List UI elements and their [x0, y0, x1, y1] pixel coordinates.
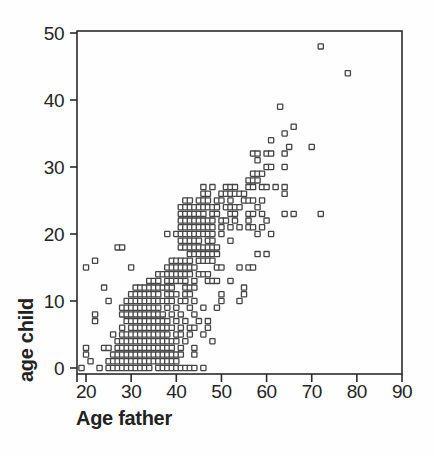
data-point-marker — [169, 285, 174, 290]
data-point-marker — [192, 265, 197, 270]
data-point-marker — [219, 292, 224, 297]
data-point-marker — [169, 325, 174, 330]
data-point-marker — [192, 352, 197, 357]
data-point-marker — [282, 151, 287, 156]
data-point-marker — [255, 158, 260, 163]
data-point-marker — [92, 312, 97, 317]
scatter-figure: 010203040502030405060708090 age child Ag… — [0, 0, 435, 456]
data-point-marker — [291, 124, 296, 129]
data-point-marker — [237, 205, 242, 210]
data-point-marker — [169, 345, 174, 350]
data-point-marker — [241, 191, 246, 196]
data-point-marker — [156, 292, 161, 297]
data-point-marker — [282, 185, 287, 190]
y-tick-label: 50 — [44, 23, 64, 44]
data-point-marker — [232, 218, 237, 223]
y-tick-label: 20 — [44, 224, 64, 245]
data-point-marker — [228, 225, 233, 230]
data-point-marker — [120, 245, 125, 250]
data-point-marker — [214, 211, 219, 216]
data-point-marker — [282, 191, 287, 196]
data-point-marker — [318, 211, 323, 216]
data-point-marker — [282, 164, 287, 169]
data-point-marker — [83, 265, 88, 270]
data-point-marker — [106, 298, 111, 303]
y-axis-title: age child — [15, 298, 38, 382]
data-point-marker — [210, 258, 215, 263]
x-tick-label: 30 — [121, 381, 141, 402]
data-point-marker — [169, 298, 174, 303]
data-point-marker — [219, 231, 224, 236]
y-tick-label: 0 — [54, 358, 64, 379]
data-point-marker — [187, 305, 192, 310]
data-point-marker — [210, 231, 215, 236]
data-point-marker — [178, 345, 183, 350]
data-point-marker — [187, 292, 192, 297]
data-point-marker — [169, 312, 174, 317]
data-point-marker — [214, 205, 219, 210]
data-point-marker — [232, 211, 237, 216]
data-point-marker — [268, 138, 273, 143]
data-point-marker — [205, 319, 210, 324]
data-point-marker — [278, 104, 283, 109]
data-point-marker — [178, 352, 183, 357]
data-point-marker — [219, 225, 224, 230]
data-point-marker — [183, 278, 188, 283]
data-point-marker — [237, 265, 242, 270]
data-point-marker — [201, 211, 206, 216]
data-point-marker — [241, 285, 246, 290]
data-point-marker — [219, 298, 224, 303]
data-point-marker — [183, 339, 188, 344]
plot-canvas: 010203040502030405060708090 — [0, 0, 435, 456]
data-point-marker — [237, 298, 242, 303]
data-point-marker — [192, 298, 197, 303]
data-point-marker — [250, 225, 255, 230]
data-point-marker — [309, 144, 314, 149]
data-point-marker — [214, 245, 219, 250]
data-point-marker — [268, 231, 273, 236]
data-points — [79, 44, 351, 371]
data-point-marker — [192, 365, 197, 370]
data-point-marker — [196, 238, 201, 243]
data-point-marker — [192, 285, 197, 290]
data-point-marker — [246, 218, 251, 223]
data-point-marker — [201, 332, 206, 337]
data-point-marker — [210, 225, 215, 230]
y-tick-label: 40 — [44, 90, 64, 111]
data-point-marker — [187, 332, 192, 337]
data-point-marker — [165, 332, 170, 337]
data-point-marker — [83, 352, 88, 357]
data-point-marker — [264, 185, 269, 190]
data-point-marker — [156, 305, 161, 310]
data-point-marker — [192, 312, 197, 317]
data-point-marker — [259, 211, 264, 216]
x-tick-label: 60 — [257, 381, 277, 402]
data-point-marker — [228, 238, 233, 243]
data-point-marker — [101, 285, 106, 290]
data-point-marker — [201, 365, 206, 370]
data-point-marker — [232, 185, 237, 190]
data-point-marker — [106, 345, 111, 350]
x-tick-label: 50 — [211, 381, 231, 402]
y-tick-label: 10 — [44, 291, 64, 312]
data-point-marker — [214, 305, 219, 310]
data-point-marker — [241, 292, 246, 297]
data-point-marker — [160, 312, 165, 317]
data-point-marker — [210, 218, 215, 223]
data-point-marker — [282, 211, 287, 216]
data-point-marker — [259, 171, 264, 176]
data-point-marker — [250, 185, 255, 190]
data-point-marker — [192, 345, 197, 350]
data-point-marker — [192, 278, 197, 283]
data-point-marker — [205, 191, 210, 196]
data-point-marker — [255, 252, 260, 257]
data-point-marker — [219, 265, 224, 270]
data-point-marker — [178, 312, 183, 317]
data-point-marker — [210, 185, 215, 190]
data-point-marker — [268, 164, 273, 169]
data-point-marker — [196, 319, 201, 324]
data-point-marker — [287, 144, 292, 149]
data-point-marker — [83, 345, 88, 350]
data-point-marker — [97, 365, 102, 370]
data-point-marker — [174, 339, 179, 344]
